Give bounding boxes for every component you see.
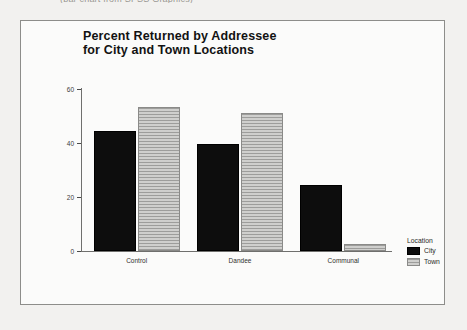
y-axis-tick [77,197,81,198]
bar-town [241,113,283,251]
y-axis-tick [77,251,81,252]
chart-legend: Location CityTown [407,237,440,269]
y-axis-tick-label: 40 [67,140,74,147]
x-axis-category-label: Control [94,257,180,264]
bar-city [94,131,136,251]
bar-town [344,244,386,251]
bar-city [197,144,239,251]
x-axis-line [81,251,392,252]
legend-item-city: City [407,247,440,255]
legend-entries: CityTown [407,247,440,266]
y-axis-tick [77,89,81,90]
plot-area: 0204060 ControlDandeeCommunal [81,89,391,251]
y-axis-tick-label: 0 [70,248,74,255]
legend-item-town: Town [407,258,440,266]
bar-group: Communal [300,89,386,251]
bar-city [300,185,342,251]
legend-label: Town [424,258,440,266]
cut-off-caption: (bar chart from SPSS Graphics) [60,0,320,3]
x-axis-category-label: Communal [300,257,386,264]
chart-title: Percent Returned by Addressee for City a… [83,30,277,57]
y-axis-tick-label: 60 [67,86,74,93]
x-axis-category-label: Dandee [197,257,283,264]
y-axis-tick [77,143,81,144]
y-axis-tick-label: 20 [67,194,74,201]
bar-town [138,107,180,251]
legend-label: City [424,247,436,255]
chart-figure-frame: Percent Returned by Addressee for City a… [20,20,445,305]
bar-group: Control [94,89,180,251]
legend-swatch-town [407,258,420,266]
y-axis-line [81,88,82,252]
legend-title: Location [407,237,440,244]
legend-swatch-city [407,247,420,255]
screenshot-root: (bar chart from SPSS Graphics) Percent R… [0,0,467,330]
bar-group: Dandee [197,89,283,251]
